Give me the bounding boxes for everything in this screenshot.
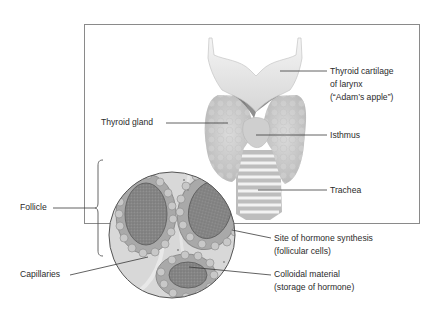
label-line: Thyroid cartilage [330, 65, 394, 78]
label-line: (storage of hormone) [274, 281, 354, 294]
label-thyroid-cartilage: Thyroid cartilage of larynx (“Adam’s app… [330, 65, 394, 104]
diagram-graphics [0, 0, 435, 313]
label-thyroid-gland: Thyroid gland [101, 116, 153, 129]
trachea [236, 150, 282, 220]
colloid [125, 183, 167, 245]
label-line: Site of hormone synthesis [274, 232, 373, 245]
label-colloid: Colloidal material (storage of hormone) [274, 268, 354, 294]
label-line: (“Adam’s apple”) [330, 91, 394, 104]
label-line: Colloidal material [274, 268, 354, 281]
label-capillaries: Capillaries [20, 268, 60, 281]
label-follicle: Follicle [20, 201, 47, 214]
label-trachea: Trachea [330, 184, 361, 197]
label-line: of larynx [330, 78, 394, 91]
thyroid-diagram: Thyroid cartilage of larynx (“Adam’s app… [0, 0, 435, 313]
label-isthmus: Isthmus [330, 129, 360, 142]
label-line: (follicular cells) [274, 245, 373, 258]
label-hormone-site: Site of hormone synthesis (follicular ce… [274, 232, 373, 258]
